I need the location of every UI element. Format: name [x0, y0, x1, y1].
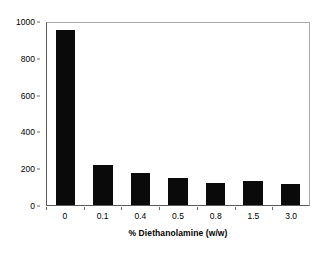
bar-slot — [47, 23, 84, 205]
y-axis-tick-mark — [37, 169, 40, 170]
bar-slot — [197, 23, 234, 205]
bar — [131, 173, 150, 205]
x-axis-tick-label: 0.5 — [159, 210, 197, 224]
bar — [56, 30, 75, 205]
plot-area — [46, 22, 310, 206]
y-axis-tick-label: 200 — [21, 165, 35, 174]
bar-slot — [159, 23, 196, 205]
y-axis-tick-label: 800 — [21, 54, 35, 63]
y-axis-tick-mark — [37, 58, 40, 59]
x-axis-tick-labels: 00.10.40.50.81.53.0 — [46, 210, 310, 224]
x-axis-tick-label: 0.8 — [197, 210, 235, 224]
bar — [243, 181, 262, 205]
y-axis-tick-label: 0 — [30, 202, 35, 211]
bar-chart-figure: Mean Droplet Size (nm) 02004006008001000… — [0, 0, 330, 259]
bar — [206, 183, 225, 205]
x-axis-tick-label: 3.0 — [272, 210, 310, 224]
bar — [281, 184, 300, 205]
bar-slot — [84, 23, 121, 205]
y-axis-tick-label: 400 — [21, 128, 35, 137]
x-axis-title: % Diethanolamine (w/w) — [46, 228, 310, 238]
y-axis-tick-mark — [37, 95, 40, 96]
bar-slot — [122, 23, 159, 205]
x-axis-tick-label: 0.4 — [121, 210, 159, 224]
x-axis-tick-label: 1.5 — [235, 210, 273, 224]
y-axis-tick-labels: 02004006008001000 — [6, 22, 40, 206]
y-axis-tick-label: 600 — [21, 91, 35, 100]
bar — [168, 178, 187, 205]
y-axis-tick-mark — [37, 22, 40, 23]
y-axis-tick-label: 1000 — [16, 18, 35, 27]
y-axis-tick-mark — [37, 206, 40, 207]
y-axis-tick-mark — [37, 132, 40, 133]
x-axis-tick-label: 0.1 — [84, 210, 122, 224]
bar-slot — [234, 23, 271, 205]
bar — [93, 165, 112, 205]
bar-slot — [272, 23, 309, 205]
bars-layer — [47, 23, 309, 205]
x-axis-tick-label: 0 — [46, 210, 84, 224]
